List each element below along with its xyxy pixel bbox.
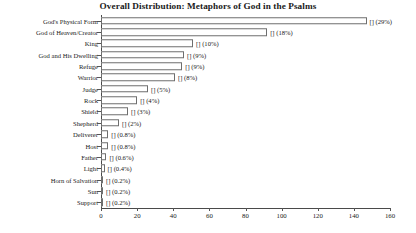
bar[interactable] <box>101 130 108 137</box>
bar-chart: Overall Distribution: Metaphors of God i… <box>0 0 416 233</box>
category-label: Light <box>84 165 98 172</box>
x-axis-tick-label: 140 <box>349 212 359 219</box>
bar-row: [] (9%) <box>101 49 390 60</box>
category-label: Warrior <box>78 74 98 81</box>
bar-row: [] (0.2%) <box>101 174 390 185</box>
category-label: Rock <box>84 97 98 104</box>
x-axis-tick-mark <box>173 208 174 211</box>
bar-value-label: [] (0.2%) <box>103 176 130 183</box>
x-axis-ticks: 020406080100120140160 <box>101 208 391 230</box>
x-axis-tick-mark <box>354 208 355 211</box>
bar-value-label: [] (0.8%) <box>108 131 135 138</box>
bar-value-label: [] (9%) <box>182 63 204 70</box>
bar-row: [] (2%) <box>101 117 390 128</box>
x-axis-tick-mark <box>390 208 391 211</box>
x-axis-tick-label: 40 <box>170 212 177 219</box>
category-label-row: God of Heaven/Creator <box>0 26 98 37</box>
category-label-row: Host <box>0 140 98 151</box>
plot-area: [] (29%)[] (18%)[] (10%)[] (9%)[] (9%)[]… <box>101 15 390 208</box>
category-label-row: Judge <box>0 83 98 94</box>
category-label-row: Shield <box>0 106 98 117</box>
category-label-row: Father <box>0 151 98 162</box>
bar[interactable] <box>101 142 108 149</box>
category-label: Deliverer <box>73 131 98 138</box>
bar-row: [] (3%) <box>101 106 390 117</box>
bar-row: [] (0.4%) <box>101 163 390 174</box>
category-label-row: Refuge <box>0 60 98 71</box>
category-label: Father <box>81 153 98 160</box>
bar-row: [] (0.8%) <box>101 129 390 140</box>
category-label: Refuge <box>79 63 98 70</box>
x-axis-tick-mark <box>209 208 210 211</box>
bar-value-label: [] (10%) <box>193 40 219 47</box>
category-label: Shield <box>81 108 98 115</box>
bar-row: [] (5%) <box>101 83 390 94</box>
bar-row: [] (0.8%) <box>101 140 390 151</box>
category-label-row: Support <box>0 197 98 208</box>
bar-value-label: [] (4%) <box>137 97 159 104</box>
bar-row: [] (10%) <box>101 38 390 49</box>
bar[interactable] <box>101 96 137 103</box>
bar-row: [] (8%) <box>101 72 390 83</box>
x-axis-tick-mark <box>101 208 102 211</box>
bar-value-label: [] (0.4%) <box>105 165 132 172</box>
category-label: Shepherd <box>73 119 98 126</box>
x-axis-tick-label: 60 <box>206 212 213 219</box>
x-axis-tick-label: 80 <box>242 212 249 219</box>
category-label-row: Light <box>0 163 98 174</box>
bar-value-label: [] (0.2%) <box>103 199 130 206</box>
bar-value-label: [] (29%) <box>367 17 393 24</box>
category-label-row: Sun <box>0 185 98 196</box>
category-label-row: Shepherd <box>0 117 98 128</box>
category-label-row: King <box>0 38 98 49</box>
bar[interactable] <box>101 119 119 126</box>
category-label: God and His Dwelling <box>38 51 98 58</box>
bar-value-label: [] (0.6%) <box>106 153 133 160</box>
category-label-row: Warrior <box>0 72 98 83</box>
bar[interactable] <box>101 17 367 24</box>
category-label-row: Rock <box>0 94 98 105</box>
bar[interactable] <box>101 85 148 92</box>
bar-row: [] (9%) <box>101 60 390 71</box>
bar-row: [] (18%) <box>101 26 390 37</box>
x-axis-tick-label: 100 <box>277 212 287 219</box>
bar[interactable] <box>101 28 267 35</box>
x-axis-tick-label: 0 <box>99 212 102 219</box>
category-label: Support <box>77 199 98 206</box>
category-label-row: God's Physical Form <box>0 15 98 26</box>
bar-row: [] (29%) <box>101 15 390 26</box>
category-label-row: God and His Dwelling <box>0 49 98 60</box>
bar-value-label: [] (5%) <box>148 85 170 92</box>
bar-row: [] (0.6%) <box>101 151 390 162</box>
category-label: God of Heaven/Creator <box>36 29 98 36</box>
category-label: Judge <box>83 85 98 92</box>
bar-row: [] (0.2%) <box>101 185 390 196</box>
bar[interactable] <box>101 74 175 81</box>
bar-row: [] (0.2%) <box>101 197 390 208</box>
bar-value-label: [] (0.2%) <box>103 187 130 194</box>
bar[interactable] <box>101 108 128 115</box>
bar-value-label: [] (8%) <box>175 74 197 81</box>
category-axis-labels: God's Physical FormGod of Heaven/Creator… <box>0 15 98 208</box>
bar[interactable] <box>101 62 182 69</box>
x-axis-tick-mark <box>318 208 319 211</box>
x-axis-tick-mark <box>246 208 247 211</box>
bar-value-label: [] (3%) <box>128 108 150 115</box>
category-label-row: Horn of Salvation <box>0 174 98 185</box>
x-axis-tick-mark <box>282 208 283 211</box>
bar-value-label: [] (0.8%) <box>108 142 135 149</box>
x-axis-tick-label: 20 <box>134 212 141 219</box>
bar[interactable] <box>101 51 184 58</box>
category-label: God's Physical Form <box>43 17 98 24</box>
bar-value-label: [] (18%) <box>267 29 293 36</box>
bar-row: [] (4%) <box>101 94 390 105</box>
chart-title: Overall Distribution: Metaphors of God i… <box>0 1 416 11</box>
category-label-row: Deliverer <box>0 129 98 140</box>
x-axis-tick-mark <box>137 208 138 211</box>
x-axis-tick-label: 160 <box>385 212 395 219</box>
bar-value-label: [] (9%) <box>184 51 206 58</box>
bar-value-label: [] (2%) <box>119 119 141 126</box>
bar[interactable] <box>101 40 193 47</box>
category-label: Horn of Salvation <box>51 176 98 183</box>
x-axis-tick-label: 120 <box>313 212 323 219</box>
